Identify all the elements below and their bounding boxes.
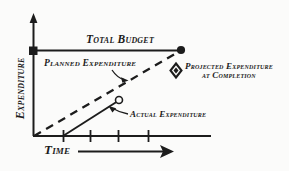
- total-budget-label: Total Budget: [86, 33, 154, 45]
- y-axis-label-expenditure: Expenditure: [14, 40, 27, 136]
- expenditure-vs-time-chart: Total Budget Planned Expenditure Actual …: [0, 0, 289, 171]
- total-budget-start-square-marker: [29, 47, 38, 56]
- y-axis-arrow-icon: [30, 13, 38, 23]
- series-total-budget: [29, 46, 185, 55]
- series-actual-expenditure: [63, 97, 123, 137]
- actual-expenditure-leader-arrow-icon: [109, 106, 129, 114]
- total-budget-end-circle-marker: [177, 46, 185, 54]
- projected-expenditure-label: Projected Expenditureat Completion: [185, 62, 273, 81]
- planned-expenditure-leader-arrow-icon: [112, 70, 129, 83]
- x-axis-label-time: Time: [44, 143, 70, 157]
- projected-expenditure-diamond-marker: [171, 64, 182, 78]
- planned-expenditure-label: Planned Expenditure: [44, 59, 136, 69]
- projected-expenditure-label-line2: at Completion: [185, 71, 273, 80]
- actual-expenditure-end-open-circle-marker: [116, 97, 123, 104]
- time-axis-arrow-icon: [78, 145, 174, 158]
- actual-expenditure-label: Actual Expenditure: [130, 110, 206, 119]
